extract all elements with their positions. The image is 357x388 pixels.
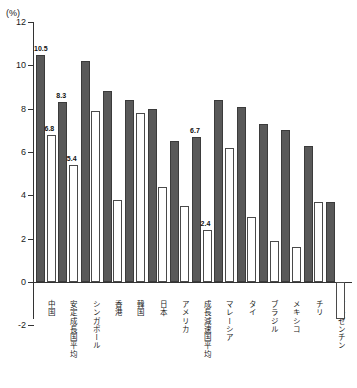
x-axis-label-6: アメリカ	[178, 300, 188, 333]
y-axis-tick-label: 10	[2, 61, 26, 70]
y-axis-tick-label: 8	[2, 104, 26, 113]
y-axis-tick-label: 2	[2, 234, 26, 243]
bar-light-series-1	[69, 165, 78, 282]
bar-light-series-9	[247, 217, 256, 282]
bar-dark-series-1	[58, 102, 67, 282]
bar-dark-series-5	[148, 109, 157, 282]
bar-light-series-11	[292, 247, 301, 282]
bar-value-label: 2.4	[201, 220, 211, 227]
x-axis-label-11: メキシコ	[290, 300, 300, 333]
bar-chart: (%) 121086420-2 中国安定成長国平均シンガポール香港韓国日本アメリ…	[0, 0, 357, 388]
y-axis-tick-label: 12	[2, 18, 26, 27]
y-axis-tick-label: 4	[2, 191, 26, 200]
bar-dark-series-11	[281, 130, 290, 282]
bar-light-series-0	[47, 135, 56, 282]
x-axis-label-3: 香港	[111, 300, 121, 317]
bar-dark-series-13	[326, 202, 335, 282]
bar-value-label: 6.7	[190, 127, 200, 134]
bar-dark-series-9	[237, 107, 246, 283]
bar-dark-series-8	[214, 100, 223, 282]
bar-value-label: 10.5	[34, 45, 48, 52]
bar-light-series-4	[136, 113, 145, 282]
x-axis-label-12: チリ	[312, 300, 322, 317]
bar-dark-series-7	[192, 137, 201, 282]
x-axis-label-7: 成長減速国平均	[201, 300, 211, 358]
bar-dark-series-12	[304, 146, 313, 283]
x-axis-label-10: ブラジル	[268, 300, 278, 333]
bar-light-series-8	[225, 148, 234, 282]
bar-dark-series-3	[103, 91, 112, 282]
y-axis-tick-label: -2	[2, 321, 26, 330]
bar-dark-series-10	[259, 124, 268, 282]
x-axis-label-5: 日本	[156, 300, 166, 317]
bar-dark-series-4	[125, 100, 134, 282]
y-axis-tick-label: 0	[2, 278, 26, 287]
bar-value-label: 5.4	[67, 155, 77, 162]
x-axis-label-1: 安定成長国平均	[67, 300, 77, 358]
bar-light-series-12	[314, 202, 323, 282]
bar-light-series-3	[113, 200, 122, 282]
bar-light-series-10	[270, 241, 279, 282]
x-axis-label-0: 中国	[45, 300, 55, 317]
bar-value-label: 6.8	[45, 125, 55, 132]
x-axis-label-9: タイ	[245, 300, 255, 317]
bar-light-series-5	[158, 187, 167, 282]
y-axis-tick	[28, 325, 34, 326]
bar-dark-series-6	[170, 141, 179, 282]
x-axis-label-4: 韓国	[134, 300, 144, 317]
bar-value-label: 8.3	[56, 92, 66, 99]
x-axis-label-2: シンガポール	[89, 300, 99, 350]
y-axis-tick-label: 6	[2, 148, 26, 157]
bar-light-series-6	[180, 206, 189, 282]
bar-light-series-2	[91, 111, 100, 282]
bar-dark-series-0	[36, 55, 45, 283]
bar-dark-series-2	[81, 61, 90, 282]
bar-light-series-7	[203, 230, 212, 282]
x-axis-label-8: マレーシア	[223, 300, 233, 342]
bar-light-series-13	[336, 282, 345, 319]
